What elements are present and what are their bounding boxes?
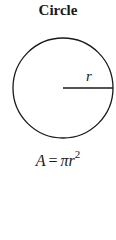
radius-label: r — [86, 68, 92, 84]
formula-exponent: 2 — [75, 148, 81, 160]
formula-equals: = — [49, 152, 58, 169]
formula-rhs: πr — [61, 152, 75, 169]
area-formula: A=πr2 — [0, 150, 116, 170]
formula-lhs: A — [36, 152, 46, 169]
